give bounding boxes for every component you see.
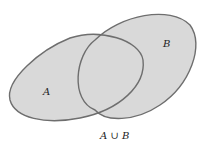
diagram-caption: A ∪ B: [99, 130, 129, 141]
set-b-label: B: [162, 38, 170, 49]
venn-diagram: A B A ∪ B: [0, 0, 203, 146]
set-a-label: A: [42, 86, 50, 97]
